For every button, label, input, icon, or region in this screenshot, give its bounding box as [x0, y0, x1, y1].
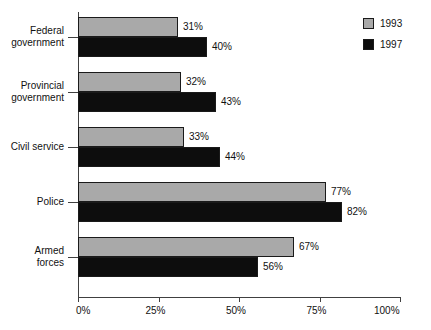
bar-chart: 0%25%50%75%100% Federalgovernment31%40%P… [0, 0, 431, 330]
legend-label: 1997 [380, 38, 402, 51]
x-axis-tick-label: 100% [374, 305, 400, 317]
x-axis-tick [159, 297, 160, 302]
x-axis-tick [400, 297, 401, 302]
bar-1993 [78, 127, 184, 147]
bar-1997 [78, 37, 207, 57]
category-label: Police [0, 196, 64, 208]
category-tick [68, 92, 78, 93]
category-label: Civil service [0, 141, 64, 153]
legend-swatch-1993 [363, 18, 374, 29]
x-axis-tick [78, 297, 79, 302]
category-tick [68, 202, 78, 203]
bar-value-label: 31% [183, 21, 203, 33]
x-axis-tick-label: 0% [76, 305, 90, 317]
bar-value-label: 67% [299, 241, 319, 253]
bar-value-label: 33% [189, 131, 209, 143]
x-axis-tick [320, 297, 321, 302]
bar-1997 [78, 92, 216, 112]
category-tick [68, 37, 78, 38]
x-axis-tick-label: 25% [146, 305, 166, 317]
bar-value-label: 77% [331, 186, 351, 198]
bar-1993 [78, 17, 178, 37]
x-axis-tick-label: 75% [307, 305, 327, 317]
bar-value-label: 32% [186, 76, 206, 88]
bar-group: Civil service33%44% [0, 127, 431, 167]
bar-1993 [78, 72, 181, 92]
bar-1993 [78, 237, 294, 257]
category-label-line: Federal [0, 25, 64, 37]
category-label-line: Provincial [0, 80, 64, 92]
bar-1997 [78, 147, 220, 167]
category-label-line: Armed [0, 245, 64, 257]
category-label-line: government [0, 92, 64, 104]
bar-value-label: 40% [212, 41, 232, 53]
bar-1997 [78, 202, 342, 222]
category-label-line: forces [0, 257, 64, 269]
x-axis-tick [239, 297, 240, 302]
bar-1997 [78, 257, 258, 277]
x-axis-tick-label: 50% [226, 305, 246, 317]
legend-swatch-1997 [363, 39, 374, 50]
bar-1993 [78, 182, 326, 202]
category-label-line: Police [0, 196, 64, 208]
bar-group: Police77%82% [0, 182, 431, 222]
category-tick [68, 257, 78, 258]
bar-value-label: 82% [347, 206, 367, 218]
legend-label: 1993 [380, 17, 402, 30]
bar-value-label: 56% [263, 261, 283, 273]
category-label: Armedforces [0, 245, 64, 269]
bar-group: Armedforces67%56% [0, 237, 431, 277]
bar-value-label: 43% [221, 96, 241, 108]
category-label-line: government [0, 37, 64, 49]
bar-group: Provincialgovernment32%43% [0, 72, 431, 112]
category-tick [68, 147, 78, 148]
category-label: Federalgovernment [0, 25, 64, 49]
category-label-line: Civil service [0, 141, 64, 153]
bar-value-label: 44% [225, 151, 245, 163]
category-label: Provincialgovernment [0, 80, 64, 104]
